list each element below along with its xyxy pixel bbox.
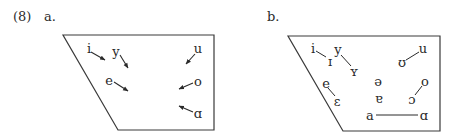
- vowel-a-u: u: [194, 42, 202, 55]
- vowel-a-i: i: [87, 42, 91, 55]
- vowel-b-y: y: [334, 43, 341, 56]
- vowel-b-e: e: [322, 77, 330, 90]
- arrow-e: [114, 82, 128, 91]
- vowel-b-small-cap-y: ʏ: [350, 65, 359, 78]
- vowel-charts: [0, 0, 451, 138]
- vowel-trapezoid-a: [63, 35, 214, 130]
- vowel-b-o: o: [421, 75, 429, 88]
- vowel-b-script-a: ɑ: [420, 109, 428, 122]
- line-ʊ-u: [406, 52, 419, 60]
- arrow-u: [186, 54, 195, 64]
- vowel-a-y: y: [112, 45, 119, 58]
- arrow-i: [91, 52, 105, 60]
- arrow-a: [179, 106, 193, 112]
- line-i-ɪ: [316, 51, 326, 57]
- vowel-b-open-o: ɔ: [408, 93, 415, 106]
- vowel-b-upsilon: ʊ: [398, 56, 406, 69]
- vowel-b-schwa: ə: [374, 75, 382, 88]
- arrow-o: [179, 83, 193, 89]
- vowel-a-o: o: [194, 75, 202, 88]
- vowel-b-i: i: [311, 42, 315, 55]
- vowel-a-script-a: ɑ: [194, 107, 202, 120]
- vowel-b-u: u: [419, 42, 427, 55]
- arrow-y: [120, 55, 128, 68]
- vowel-b-open-e: ɛ: [334, 95, 341, 108]
- vowel-a-e: e: [105, 74, 113, 87]
- vowel-b-small-cap-i: ɪ: [328, 55, 332, 68]
- vowel-b-a: a: [366, 109, 374, 122]
- vowel-b-turned-a: ɐ: [375, 92, 383, 105]
